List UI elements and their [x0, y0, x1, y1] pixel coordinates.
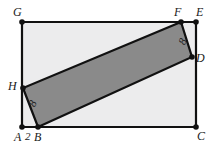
vertex-label-H: H: [8, 80, 17, 92]
vertex-dot-B: [35, 124, 41, 130]
vertex-dot-A: [19, 124, 25, 130]
vertex-label-G: G: [13, 6, 22, 18]
vertex-label-C: C: [197, 130, 205, 142]
vertex-dot-F: [178, 19, 184, 25]
vertex-dot-D: [189, 54, 195, 60]
vertex-dot-E: [193, 19, 199, 25]
vertex-label-B: B: [34, 131, 41, 143]
vertex-dot-H: [20, 85, 26, 91]
vertex-label-D: D: [196, 52, 205, 64]
geometry-figure: G F E D C H A B 2 8 8: [0, 0, 217, 147]
vertex-dot-G: [19, 19, 25, 25]
segment-length-ab: 2: [25, 131, 31, 142]
geometry-canvas: [0, 0, 217, 147]
vertex-label-E: E: [196, 6, 203, 18]
vertex-label-A: A: [14, 131, 21, 143]
vertex-label-F: F: [174, 6, 181, 18]
